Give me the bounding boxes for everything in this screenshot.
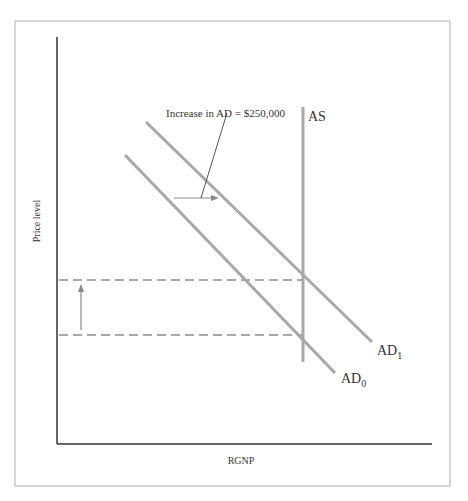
arrow-head-up-icon — [78, 284, 84, 292]
figure-frame — [15, 21, 450, 486]
as-label: AS — [308, 109, 326, 124]
y-axis-label: Price level — [31, 200, 42, 243]
ad0-label: AD0 — [341, 371, 366, 389]
ad-as-diagram: Increase in AD = $250,000 AS AD1 AD0 RGN… — [0, 0, 468, 501]
ad1-label: AD1 — [377, 343, 402, 361]
x-axis-label: RGNP — [228, 455, 255, 466]
arrow-head-right-icon — [211, 195, 219, 201]
annotation-leader-line — [201, 113, 227, 198]
annotation-label: Increase in AD = $250,000 — [166, 107, 285, 119]
ad1-curve — [146, 122, 372, 342]
